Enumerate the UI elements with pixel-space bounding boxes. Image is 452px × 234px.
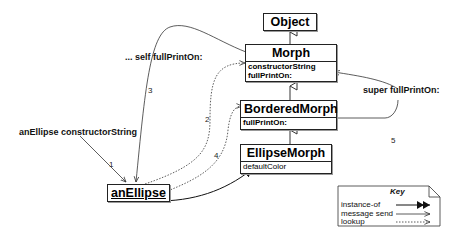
- method: fullPrintOn:: [248, 72, 334, 81]
- step-2: 2: [205, 115, 209, 124]
- step-3: 3: [148, 86, 152, 95]
- method: defaultColor: [243, 163, 329, 172]
- method-list: fullPrintOn:: [241, 117, 336, 129]
- class-name: Morph: [246, 45, 336, 61]
- method-list: constructorString fullPrintOn:: [246, 61, 336, 81]
- method: fullPrintOn:: [243, 119, 334, 128]
- label-super-message: super fullPrintOn:: [363, 85, 440, 95]
- method-list: defaultColor: [241, 161, 331, 173]
- step-4: 4: [214, 151, 218, 160]
- label-self-message: ... self fullPrintOn:: [125, 52, 203, 62]
- step-1: 1: [109, 160, 113, 169]
- class-name: BorderedMorph: [241, 101, 336, 117]
- class-morph: Morph constructorString fullPrintOn:: [245, 44, 337, 82]
- class-name: EllipseMorph: [241, 145, 331, 161]
- label-constructor-message: anEllipse constructorString: [19, 127, 137, 137]
- class-name: Object: [264, 14, 316, 30]
- instance-an-ellipse: anEllipse: [107, 184, 170, 202]
- class-object: Object: [263, 13, 317, 31]
- class-ellipse-morph: EllipseMorph defaultColor: [240, 144, 332, 174]
- legend-instance-of: instance-of: [341, 200, 380, 209]
- legend-lookup: lookup: [341, 217, 365, 226]
- step-5: 5: [391, 136, 395, 145]
- class-bordered-morph: BorderedMorph fullPrintOn:: [240, 100, 337, 130]
- legend: Key instance-of message send lookup: [338, 186, 440, 226]
- legend-title: Key: [390, 187, 405, 196]
